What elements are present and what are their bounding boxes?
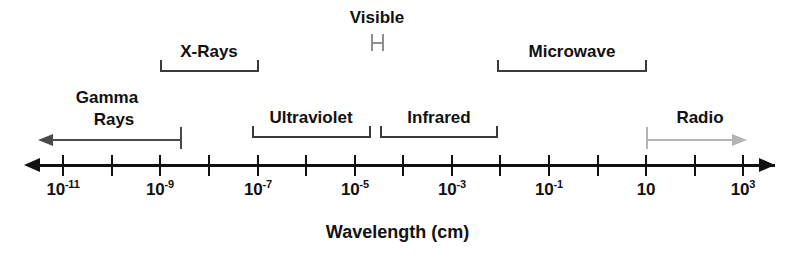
axis-tick xyxy=(111,155,113,176)
axis-tick xyxy=(62,155,64,176)
band-label-gamma-rays-line2: Rays xyxy=(94,110,135,130)
gamma-arrow-end-cap xyxy=(180,127,182,149)
axis-tick xyxy=(597,155,599,176)
axis-tick-label: 10-3 xyxy=(438,180,466,200)
axis-tick xyxy=(354,155,356,176)
axis-tick xyxy=(208,155,210,176)
tick-label-base: 10 xyxy=(46,180,65,199)
tick-label-exponent: -9 xyxy=(165,178,174,190)
radio-arrow-start-cap xyxy=(646,127,648,149)
band-label-radio: Radio xyxy=(676,108,723,128)
radio-arrow-head-icon xyxy=(732,134,747,146)
axis-arrow-right-icon xyxy=(759,158,775,172)
tick-label-exponent: -5 xyxy=(360,178,369,190)
axis-tick xyxy=(257,155,259,176)
tick-label-exponent: -7 xyxy=(263,178,272,190)
axis-tick xyxy=(159,155,161,176)
band-marker-visible xyxy=(371,34,384,51)
axis-tick xyxy=(645,155,647,176)
axis-tick xyxy=(451,155,453,176)
tick-label-exponent: -1 xyxy=(554,178,563,190)
gamma-arrow-stem xyxy=(52,139,182,141)
axis-tick-label: 10-7 xyxy=(244,180,272,200)
band-radio xyxy=(646,132,751,148)
band-label-visible: Visible xyxy=(350,8,405,28)
tick-label-exponent: -11 xyxy=(65,178,80,190)
axis-tick xyxy=(548,155,550,176)
band-gamma-rays xyxy=(22,132,162,148)
tick-label-exponent: 3 xyxy=(749,178,755,190)
tick-label-base: 10 xyxy=(438,180,457,199)
axis-tick-label: 103 xyxy=(731,180,755,200)
band-label-microwave: Microwave xyxy=(529,42,616,62)
tick-label-base: 10 xyxy=(341,180,360,199)
axis-tick-label: 10-11 xyxy=(46,180,79,200)
axis-tick-label: 10-1 xyxy=(535,180,563,200)
electromagnetic-spectrum-figure: Gamma Rays X-Rays Ultraviolet Visible In… xyxy=(0,0,795,261)
axis-tick xyxy=(499,155,501,176)
band-label-gamma-rays-line1: Gamma xyxy=(76,88,138,108)
tick-label-base: 10 xyxy=(244,180,263,199)
axis-tick-label: 10 xyxy=(637,180,656,200)
axis-tick xyxy=(402,155,404,176)
axis-tick xyxy=(742,155,744,176)
axis-tick-label: 10-5 xyxy=(341,180,369,200)
axis-tick xyxy=(305,155,307,176)
gamma-arrow-head-icon xyxy=(38,134,53,146)
band-label-infrared: Infrared xyxy=(407,108,470,128)
visible-marker-right-post xyxy=(382,34,384,51)
axis-line xyxy=(38,164,775,167)
band-label-ultraviolet: Ultraviolet xyxy=(269,108,352,128)
tick-label-base: 10 xyxy=(731,180,750,199)
axis-tick-label: 10-9 xyxy=(146,180,174,200)
axis-title: Wavelength (cm) xyxy=(0,222,795,243)
tick-label-base: 10 xyxy=(146,180,165,199)
axis-tick xyxy=(694,155,696,176)
band-label-xrays: X-Rays xyxy=(180,42,238,62)
radio-arrow-stem xyxy=(648,139,734,141)
tick-label-base: 10 xyxy=(637,180,656,199)
tick-label-exponent: -3 xyxy=(457,178,466,190)
tick-label-base: 10 xyxy=(535,180,554,199)
